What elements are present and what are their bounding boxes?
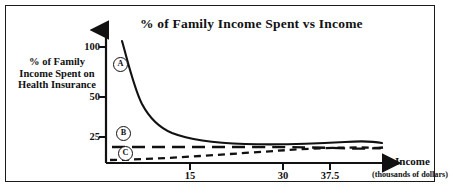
curve-a-line — [122, 41, 382, 144]
curve-c-line — [110, 148, 383, 161]
x-tick-label-15: 15 — [173, 170, 207, 181]
chart-page: % of Family Income Spent vs Income % of … — [0, 0, 453, 194]
curve-label-a: A — [113, 57, 128, 72]
x-tick-label-37-5: 37.5 — [313, 170, 347, 181]
chart-title: % of Family Income Spent vs Income — [140, 16, 363, 32]
y-tick-label-100: 100 — [74, 41, 100, 52]
x-tick-label-30: 30 — [266, 170, 300, 181]
y-axis-label: % of Family Income Spent on Health Insur… — [18, 56, 96, 91]
curve-label-b: B — [116, 126, 131, 141]
x-axis-label: Income — [395, 155, 430, 167]
y-tick-label-50: 50 — [74, 91, 100, 102]
y-tick-label-25: 25 — [74, 131, 100, 142]
x-axis-units-label: (thousands of dollars) — [372, 170, 448, 179]
curve-label-c: C — [118, 146, 133, 161]
